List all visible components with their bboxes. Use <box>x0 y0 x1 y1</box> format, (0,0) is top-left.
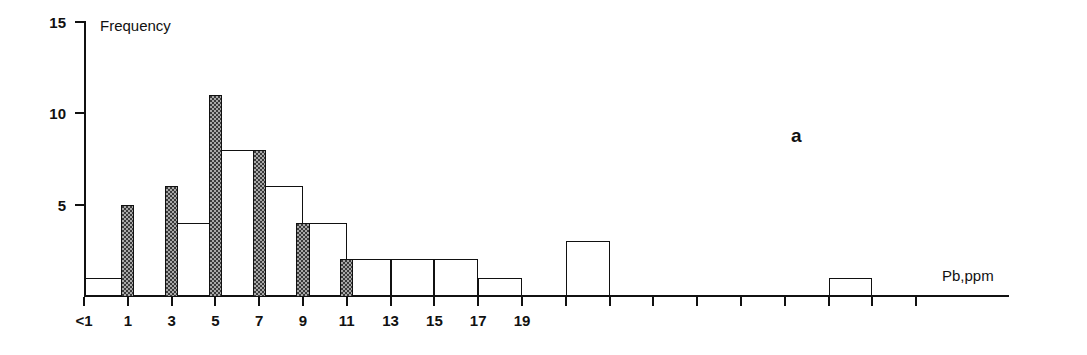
x-tick-mark <box>477 297 479 306</box>
histogram-bar-open <box>829 278 873 296</box>
x-tick-mark <box>784 297 786 306</box>
y-axis-line <box>84 21 86 297</box>
x-tick-mark <box>127 297 129 306</box>
histogram-bar-shaded <box>340 259 353 296</box>
histogram-bar-open <box>391 259 435 296</box>
histogram-figure: 51015 <1135791113151719 Frequency Pb,ppm… <box>0 0 1087 355</box>
x-tick-mark <box>346 297 348 306</box>
x-tick-label: 9 <box>280 313 326 328</box>
x-tick-mark <box>390 297 392 306</box>
histogram-bar-shaded <box>165 186 178 296</box>
x-tick-mark <box>433 297 435 306</box>
x-tick-label: 17 <box>455 313 501 328</box>
x-tick-mark <box>696 297 698 306</box>
x-tick-mark <box>214 297 216 306</box>
histogram-bar-shaded <box>121 205 134 297</box>
histogram-bar-shaded <box>209 95 222 296</box>
x-tick-mark <box>302 297 304 306</box>
panel-label: a <box>791 126 802 145</box>
x-tick-mark <box>652 297 654 306</box>
histogram-bar-open <box>347 259 391 296</box>
x-tick-mark <box>521 297 523 306</box>
x-tick-label: 3 <box>149 313 195 328</box>
x-tick-mark <box>565 297 567 306</box>
y-tick-label: 15 <box>22 15 66 30</box>
histogram-bar-open <box>434 259 478 296</box>
y-axis-title: Frequency <box>100 18 171 33</box>
histogram-bar-shaded <box>253 150 266 296</box>
x-tick-mark <box>828 297 830 306</box>
x-tick-label: 1 <box>105 313 151 328</box>
x-tick-label: 5 <box>192 313 238 328</box>
x-tick-label: 11 <box>324 313 370 328</box>
plot-area: 51015 <1135791113151719 Frequency Pb,ppm… <box>0 0 1087 355</box>
x-tick-mark <box>609 297 611 306</box>
y-tick-label: 10 <box>22 106 66 121</box>
y-tick-mark <box>75 21 84 23</box>
x-tick-label: 15 <box>411 313 457 328</box>
x-tick-mark <box>871 297 873 306</box>
x-tick-mark <box>915 297 917 306</box>
x-tick-label: 13 <box>368 313 414 328</box>
x-tick-label: <1 <box>61 313 107 328</box>
y-tick-mark <box>75 204 84 206</box>
x-tick-mark <box>258 297 260 306</box>
y-tick-label: 5 <box>22 198 66 213</box>
histogram-bar-shaded <box>296 223 309 296</box>
x-tick-label: 19 <box>499 313 545 328</box>
x-tick-mark <box>83 297 85 306</box>
x-axis-title: Pb,ppm <box>942 268 994 283</box>
y-tick-mark <box>75 112 84 114</box>
x-tick-mark <box>740 297 742 306</box>
histogram-bar-open <box>478 278 522 296</box>
x-tick-label: 7 <box>236 313 282 328</box>
histogram-bar-open <box>566 241 610 296</box>
x-tick-mark <box>171 297 173 306</box>
